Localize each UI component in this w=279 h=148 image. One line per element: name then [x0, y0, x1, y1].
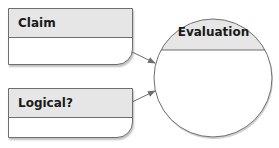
arrow-claim-to-evaluation	[132, 52, 155, 63]
logical-box: Logical?	[8, 88, 133, 138]
logical-box-header: Logical?	[9, 89, 132, 118]
arrow-logical-to-evaluation	[132, 91, 155, 102]
claim-box-header: Claim	[9, 9, 132, 38]
evaluation-label: Evaluation	[155, 25, 272, 39]
claim-box: Claim	[8, 8, 133, 65]
